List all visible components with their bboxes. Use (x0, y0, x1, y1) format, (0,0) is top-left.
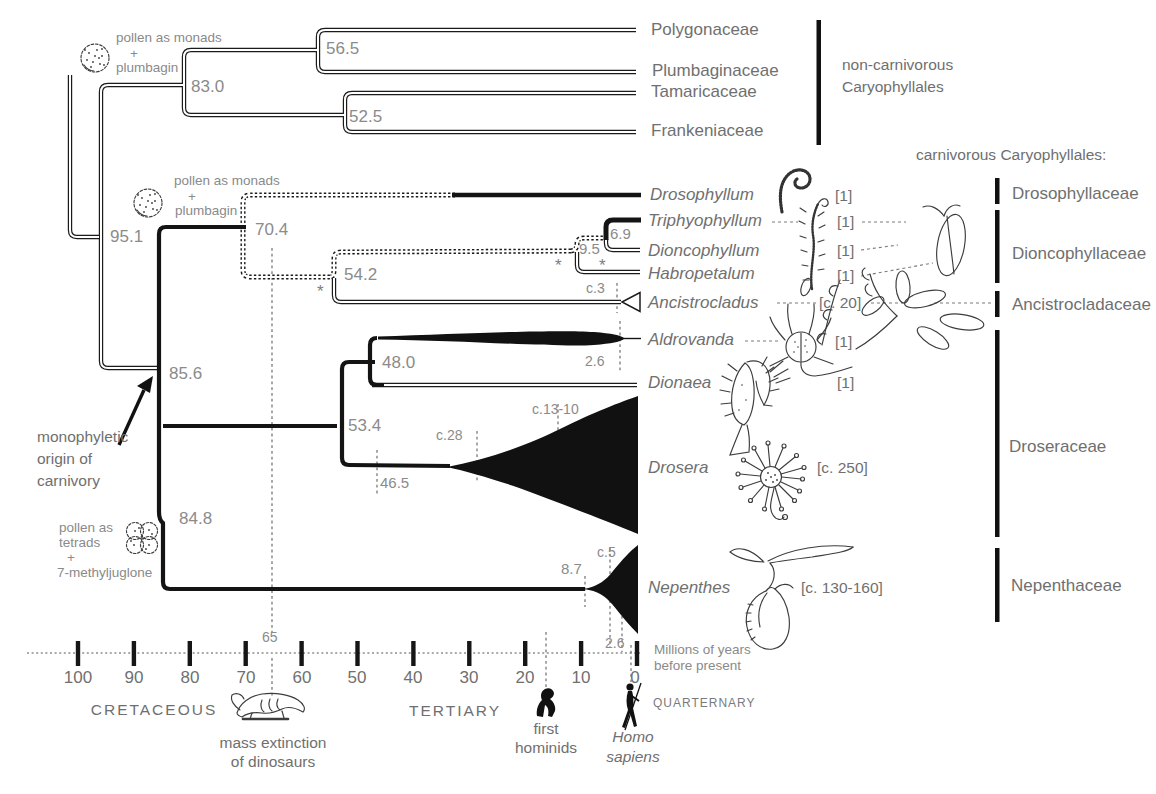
age-c5: c.5 (597, 545, 616, 561)
age-c13-10: c.13-10 (532, 402, 579, 418)
asterisk-2: * (555, 256, 562, 275)
age-2-6-aldrovanda: 2.6 (585, 354, 604, 370)
time-axis (27, 641, 640, 666)
dinosaur-skeleton-icon (231, 693, 304, 719)
period-tertiary: TERTIARY (409, 702, 501, 719)
asterisk-1: * (317, 282, 324, 301)
tip-habropetalum: Habropetalum (648, 264, 755, 283)
age-52-5: 52.5 (349, 107, 382, 126)
count-drosophyllum: [1] (835, 187, 852, 204)
carnivory-origin-line1: monophyletic (37, 428, 128, 445)
group-noncarnivorous-line2: Caryophyllales (842, 78, 944, 95)
tick-50: 50 (348, 668, 367, 687)
tick-70: 70 (237, 668, 256, 687)
tick-100: 100 (64, 668, 92, 687)
pollen-monads-1-plus: + (130, 46, 138, 61)
event-mass-extinction-line2: of dinosaurs (231, 753, 315, 770)
tip-aldrovanda: Aldrovanda (648, 330, 734, 349)
period-quaternary: QUARTERNARY (653, 697, 756, 710)
count-nepenthes: [c. 130-160] (801, 579, 883, 596)
family-nepenthaceae: Nepenthaceae (1011, 576, 1122, 595)
pollen-monads-1-line1: pollen as monads (116, 30, 222, 45)
tip-polygonaceae: Polygonaceae (651, 20, 759, 39)
noncarnivorous-bar (817, 20, 822, 145)
pollen-tetrads-plus: + (67, 550, 75, 565)
count-triphyophyllum: [1] (837, 213, 854, 230)
tip-dionaea: Dionaea (648, 373, 711, 392)
count-ancistrocladus: [c. 20] (819, 294, 861, 311)
count-dionaea: [1] (837, 374, 854, 391)
family-droseraceae: Droseraceae (1009, 437, 1106, 456)
age-9-5: 9.5 (579, 241, 600, 258)
pollen-tetrads-line1: pollen as (59, 520, 113, 535)
dioncophyllaceae-bar (995, 210, 1000, 283)
event-first-hominids-line2: hominids (515, 739, 577, 756)
family-drosophyllaceae: Drosophyllaceae (1012, 184, 1139, 203)
pollen-monads-2-plus: + (188, 189, 196, 204)
tip-dioncophyllum: Dioncophyllum (648, 241, 760, 260)
age-85-6: 85.6 (169, 364, 202, 383)
tip-plumbaginaceae: Plumbaginaceae (652, 61, 779, 80)
event-mass-extinction-line1: mass extinction (220, 734, 327, 751)
carnivory-origin-line2: origin of (37, 450, 92, 467)
pollen-monads-1-line2: plumbagin (116, 60, 178, 75)
group-bars (817, 20, 1000, 622)
tip-triphyophyllum: Triphyophyllum (648, 211, 762, 230)
tip-ancistrocladus: Ancistrocladus (648, 293, 759, 312)
carnivory-origin-line3: carnivory (37, 472, 100, 489)
tick-40: 40 (404, 668, 423, 687)
age-c28: c.28 (436, 428, 462, 444)
diversity-wedges (378, 293, 641, 635)
tick-0: 0 (630, 668, 639, 687)
age-8-7: 8.7 (561, 561, 582, 578)
count-drosera: [c. 250] (817, 459, 868, 476)
triphyophyllum-illustration (799, 199, 828, 297)
period-cretaceous: CRETACEOUS (91, 701, 218, 718)
age-6-9: 6.9 (610, 226, 631, 243)
age-46-5: 46.5 (380, 475, 409, 492)
pollen-tetrads-line2: tetrads (59, 535, 100, 550)
aldrovanda-spindle (378, 331, 625, 345)
nepenthes-illustration (730, 546, 853, 650)
pollen-monads-2-line2: plumbagin (175, 203, 237, 218)
ancistrocladus-clade-triangle (622, 293, 640, 312)
age-83-0: 83.0 (191, 77, 224, 96)
event-homo-sapiens-line2: sapiens (606, 748, 659, 765)
ancistrocladaceae-bar (995, 291, 1000, 317)
axis-title-line2: before present (654, 658, 741, 673)
tick-30: 30 (460, 668, 479, 687)
tick-60: 60 (293, 668, 312, 687)
tick-20: 20 (516, 668, 535, 687)
tip-frankeniaceae: Frankeniaceae (651, 121, 763, 140)
label-connector-dashes (745, 222, 992, 341)
age-48-0: 48.0 (382, 353, 415, 372)
count-habropetalum: [1] (837, 267, 854, 284)
event-homo-sapiens-line1: Homo (612, 728, 653, 745)
tick-10: 10 (572, 668, 591, 687)
first-hominids-icon (537, 688, 556, 717)
tip-drosera: Drosera (648, 458, 708, 477)
count-aldrovanda: [1] (835, 333, 852, 350)
pollen-tetrads-line3: 7-methyljuglone (57, 565, 152, 580)
dionaea-illustration (720, 357, 790, 455)
tick-80: 80 (181, 668, 200, 687)
age-70-4: 70.4 (255, 220, 288, 239)
tip-nepenthes: Nepenthes (648, 578, 730, 597)
drosophyllaceae-bar (995, 178, 1000, 204)
age-84-8: 84.8 (179, 509, 212, 528)
homo-sapiens-icon (622, 683, 641, 730)
family-dioncophyllaceae: Dioncophyllaceae (1012, 244, 1146, 263)
count-dioncophyllum: [1] (837, 242, 854, 259)
nepenthaceae-bar (995, 548, 1000, 622)
tick-90: 90 (125, 668, 144, 687)
age-56-5: 56.5 (326, 39, 359, 58)
drosophyllum-illustration (780, 170, 810, 212)
tip-drosophyllum: Drosophyllum (650, 185, 754, 204)
quaternary-boundary-label: 2.6 (605, 636, 624, 652)
tip-tamaricaceae: Tamaricaceae (651, 82, 757, 101)
asterisk-3: * (599, 256, 606, 275)
checkered-branches (243, 195, 603, 277)
dioncophyllum-leaf-illustration (923, 205, 970, 278)
pollen-monads-2-line1: pollen as monads (174, 173, 280, 188)
group-carnivorous: carnivorous Caryophyllales: (916, 146, 1106, 163)
